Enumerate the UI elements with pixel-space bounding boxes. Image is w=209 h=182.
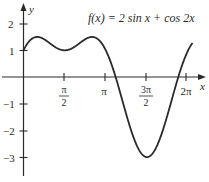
- x-tick-label-2pi: 2π: [180, 85, 192, 97]
- x-tick-label-3pi-half-den: 2: [144, 97, 149, 108]
- x-axis-label: x: [199, 80, 205, 92]
- function-curve: [24, 37, 193, 157]
- x-tick-label-pi-half-den: 2: [62, 97, 67, 108]
- y-tick-label-1: 1: [9, 45, 15, 57]
- x-tick-label-pi: π: [101, 85, 107, 97]
- x-tick-label-pi-half-num: π: [61, 84, 66, 95]
- function-formula: f(x) = 2 sin x + cos 2x: [88, 11, 195, 25]
- y-tick-label-neg2: −2: [3, 125, 15, 137]
- y-tick-label-neg3: −3: [3, 152, 15, 164]
- x-tick-label-3pi-half-num: 3π: [141, 84, 151, 95]
- function-graph: 2 1 −1 −2 −3 π 2 π 3π 2 2π x y f(x) = 2 …: [0, 0, 209, 182]
- y-tick-label-neg1: −1: [3, 98, 15, 110]
- y-tick-label-2: 2: [8, 18, 14, 30]
- y-axis-label: y: [28, 3, 34, 15]
- y-axis-arrow-icon: [21, 3, 27, 11]
